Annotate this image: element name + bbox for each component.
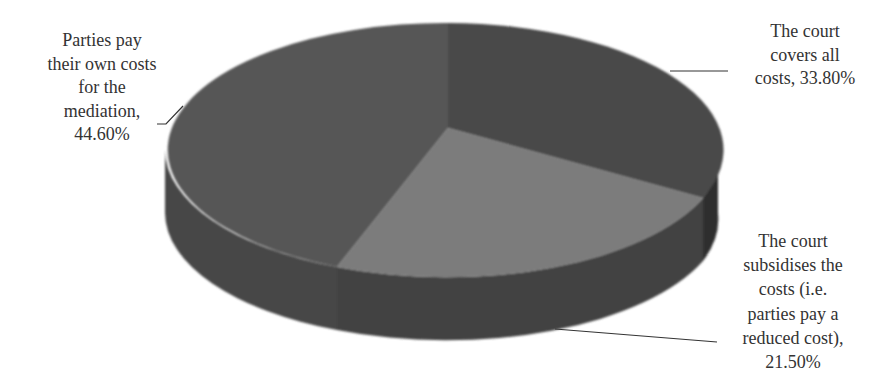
label-line: covers all	[730, 44, 880, 68]
leader-line-bottom-right	[555, 329, 717, 342]
data-label-court-subsidises: The court subsidises the costs (i.e. par…	[718, 229, 868, 374]
label-line: costs (i.e.	[718, 277, 868, 301]
label-line: reduced cost),	[718, 326, 868, 350]
label-line: 21.50%	[718, 350, 868, 374]
label-line: Parties pay	[22, 29, 182, 53]
label-line: parties pay a	[718, 302, 868, 326]
label-line: subsidises the	[718, 253, 868, 277]
label-line: The court	[718, 229, 868, 253]
label-line: 44.60%	[22, 123, 182, 147]
data-label-court-covers: The court covers all costs, 33.80%	[730, 20, 880, 91]
label-line: their own costs	[22, 53, 182, 77]
label-line: mediation,	[22, 100, 182, 124]
label-line: costs, 33.80%	[730, 67, 880, 91]
label-line: The court	[730, 20, 880, 44]
label-line: for the	[22, 76, 182, 100]
data-label-parties-pay: Parties pay their own costs for the medi…	[22, 29, 182, 147]
